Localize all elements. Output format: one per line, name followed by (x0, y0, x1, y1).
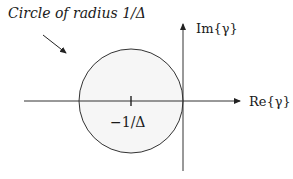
real-axis-label: Re{γ} (249, 94, 291, 109)
imaginary-axis-label: Im{γ} (196, 21, 238, 36)
circle-annotation: Circle of radius 1/Δ (8, 5, 146, 21)
annotation-arrow (43, 35, 66, 53)
complex-plane-diagram: Circle of radius 1/Δ Im{γ} Re{γ} −1/Δ (0, 0, 293, 179)
center-label: −1/Δ (110, 114, 145, 130)
